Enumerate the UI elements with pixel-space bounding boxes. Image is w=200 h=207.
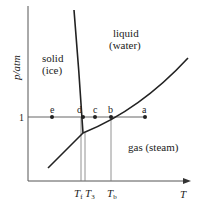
x-axis-arrow-icon: [183, 178, 191, 184]
tb-subscript: b: [113, 193, 117, 201]
point-e-label: e: [50, 104, 55, 115]
phase-diagram: e d c b a solid (ice) liquid (water) gas…: [0, 0, 200, 207]
tf-label: Tf: [74, 187, 83, 201]
point-b-marker: [109, 115, 113, 119]
sublimation-curve: [48, 133, 83, 168]
point-a-label: a: [142, 104, 147, 115]
point-a-marker: [143, 115, 147, 119]
point-c-label: c: [93, 104, 98, 115]
y-tick-label-1: 1: [19, 112, 24, 123]
point-c-marker: [93, 115, 97, 119]
region-gas-label: gas (steam): [128, 141, 179, 154]
point-e-marker: [50, 115, 54, 119]
x-axis-label: T: [180, 188, 187, 200]
y-axis-label: p/atm: [10, 55, 22, 81]
tb-label: Tb: [107, 187, 117, 201]
tf-subscript: f: [80, 193, 83, 201]
point-d-marker: [81, 115, 85, 119]
region-solid-sublabel: (ice): [42, 64, 62, 77]
point-b-label: b: [108, 104, 113, 115]
point-d-label: d: [77, 104, 82, 115]
region-solid-label: solid: [42, 52, 64, 64]
t3-subscript: 3: [91, 193, 95, 201]
region-liquid-label: liquid: [113, 27, 139, 39]
t3-label: T3: [85, 187, 95, 201]
region-liquid-sublabel: (water): [109, 39, 141, 52]
vaporization-curve: [83, 58, 188, 133]
